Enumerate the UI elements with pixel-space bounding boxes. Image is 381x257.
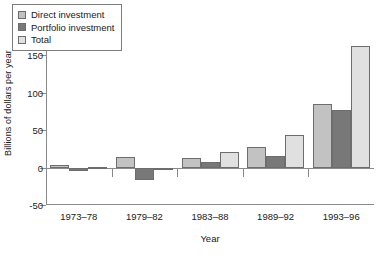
x-axis-tick-label: 1973–78 [60,211,97,222]
y-axis-tick-label: 50 [32,125,43,136]
x-axis-tick-label: 1989–92 [257,211,294,222]
legend-swatch-icon [18,36,26,44]
bar [88,167,107,169]
bar [69,168,88,171]
x-axis-tick-label: 1979–82 [126,211,163,222]
legend-item: Portfolio investment [18,21,114,33]
bar [135,168,154,181]
x-axis-tick-label: 1993–96 [323,211,360,222]
y-axis-tick-label: 0 [38,162,43,173]
bar [247,147,266,168]
group-separator-tick [243,168,244,177]
bar [332,110,351,168]
y-axis-title-text: Billions of dollars per year [3,50,13,156]
x-axis-title: Year [46,233,374,244]
y-axis-tick-label: 100 [27,87,43,98]
bar [313,104,332,168]
legend-label: Portfolio investment [31,22,114,33]
bar [201,162,220,168]
bar-chart: Billions of dollars per year -5005010015… [0,0,381,257]
bar [116,157,135,167]
bar [220,152,239,168]
y-axis-tick-label: 150 [27,50,43,61]
y-axis-tick-label: -50 [29,200,43,211]
legend-item: Direct investment [18,9,114,21]
bar [266,156,285,167]
chart-legend: Direct investmentPortfolio investmentTot… [12,4,122,51]
group-separator-tick [177,168,178,177]
group-separator-tick [112,168,113,177]
bar [182,158,201,168]
bar [154,168,173,170]
legend-label: Total [31,34,51,45]
bar [351,46,370,167]
legend-swatch-icon [18,11,26,19]
x-axis-tick-label: 1983–88 [192,211,229,222]
group-separator-tick [308,168,309,177]
bar [50,165,69,168]
legend-label: Direct investment [31,9,104,20]
x-axis-line [46,204,374,205]
legend-item: Total [18,34,114,46]
legend-swatch-icon [18,23,26,31]
bar [285,135,304,167]
